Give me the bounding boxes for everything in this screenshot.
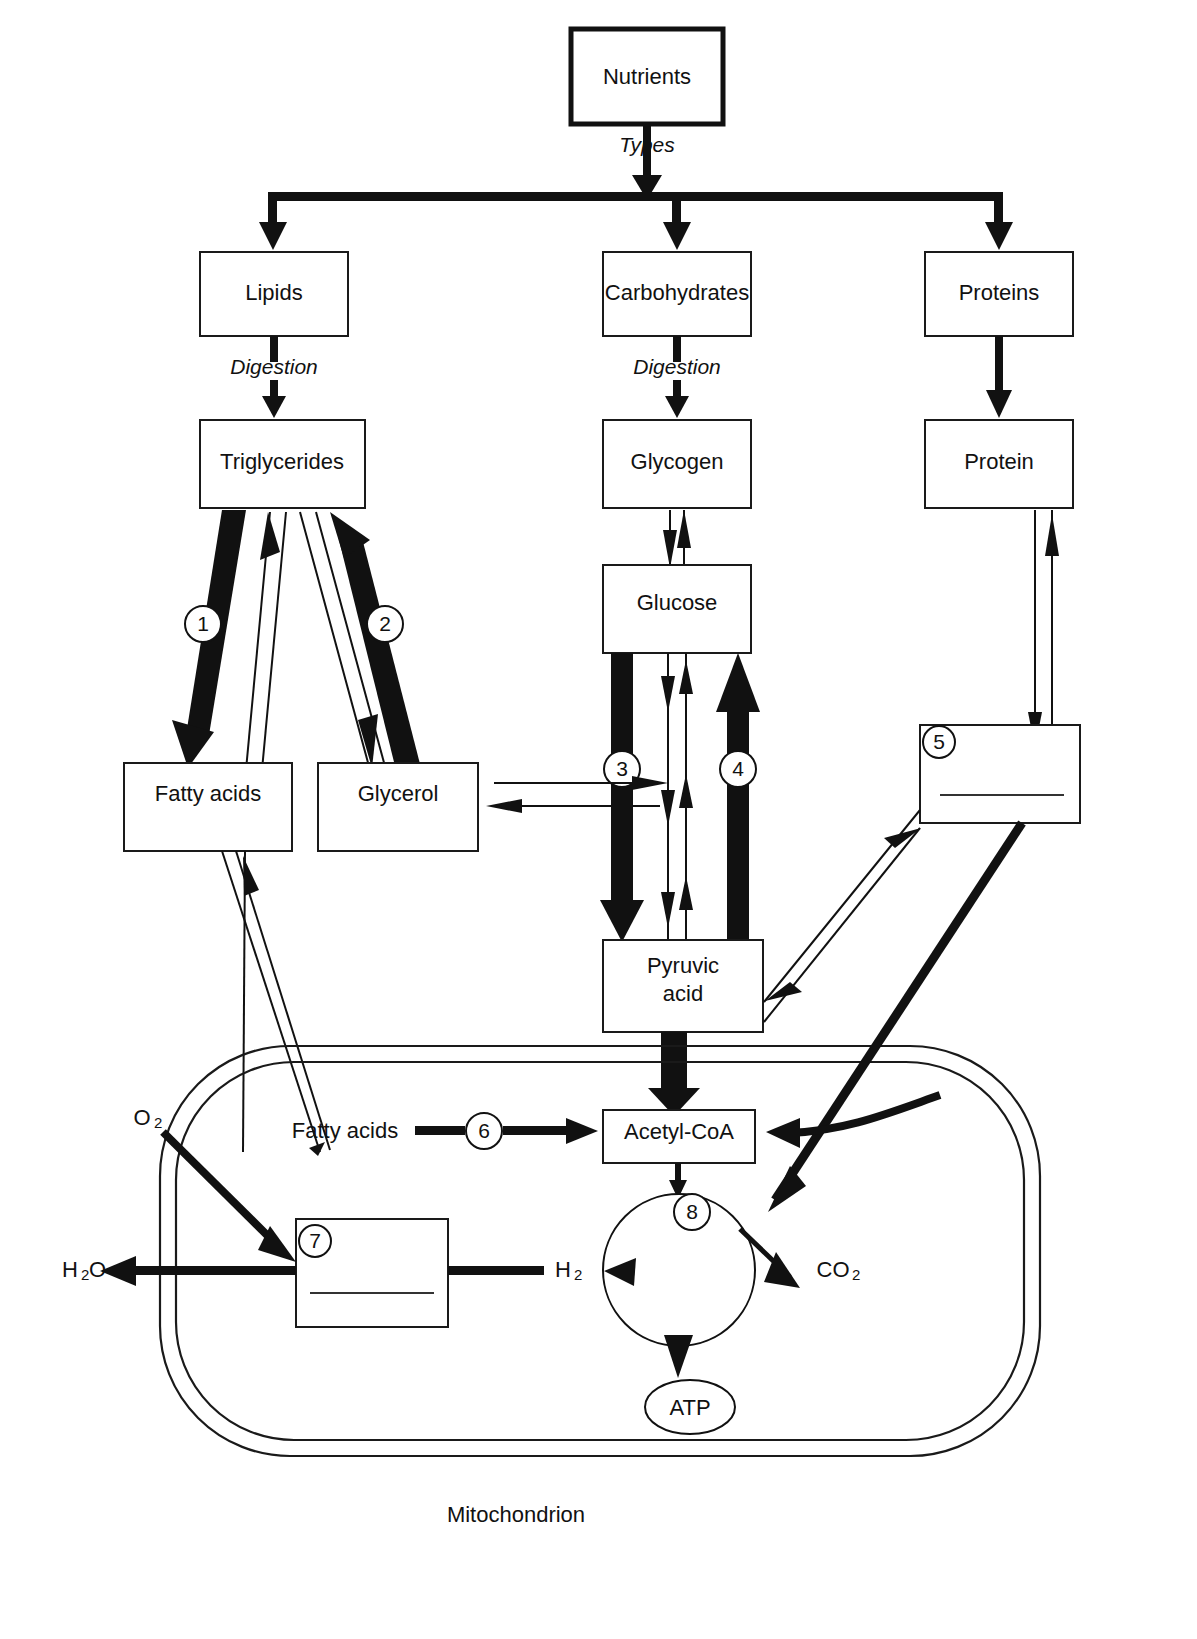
node-glycogen: Glycogen xyxy=(603,420,751,508)
digestion-lipids-label: Digestion xyxy=(230,355,318,378)
node-nutrients: Nutrients xyxy=(571,29,723,124)
co2-label: CO xyxy=(817,1257,850,1282)
lipids-label: Lipids xyxy=(245,280,302,305)
glycerol-box xyxy=(318,763,478,851)
h2-label: H xyxy=(555,1257,571,1282)
fatty-acids-box xyxy=(124,763,292,851)
node-pyruvic-acid: Pyruvic acid xyxy=(603,940,763,1032)
metabolism-flow-diagram: Nutrients Types Lipids Carbohydrates Pro… xyxy=(0,0,1197,1639)
node-carbohydrates: Carbohydrates xyxy=(603,252,751,336)
node-acetyl-coa: Acetyl-CoA xyxy=(603,1110,755,1163)
o2-label: O xyxy=(133,1105,150,1130)
protein-label: Protein xyxy=(964,449,1034,474)
node-protein: Protein xyxy=(925,420,1073,508)
glycerol-label: Glycerol xyxy=(358,781,439,806)
step-marker-2: 2 xyxy=(367,606,403,642)
h2-subscript: 2 xyxy=(574,1266,582,1283)
node-glycerol: Glycerol xyxy=(318,763,478,851)
acetyl-coa-label: Acetyl-CoA xyxy=(624,1119,734,1144)
o2-subscript: 2 xyxy=(154,1114,162,1131)
glucose-label: Glucose xyxy=(637,590,718,615)
carbohydrates-label: Carbohydrates xyxy=(605,280,749,305)
node-glucose: Glucose xyxy=(603,565,751,653)
step-3-label: 3 xyxy=(616,757,628,780)
step-4-label: 4 xyxy=(732,757,744,780)
pyruvic-acid-label-line2: acid xyxy=(663,981,703,1006)
co2-subscript: 2 xyxy=(852,1266,860,1283)
node-answer-box-7[interactable]: 7 xyxy=(296,1219,448,1327)
types-edge-label: Types xyxy=(619,133,675,156)
step-2-label: 2 xyxy=(379,612,391,635)
mitochondrion-caption: Mitochondrion xyxy=(447,1502,585,1527)
proteins-label: Proteins xyxy=(959,280,1040,305)
pyruvic-acid-label-line1: Pyruvic xyxy=(647,953,719,978)
mito-fatty-acids-label: Fatty acids xyxy=(292,1118,398,1143)
triglycerides-label: Triglycerides xyxy=(220,449,344,474)
node-triglycerides: Triglycerides xyxy=(200,420,365,508)
node-proteins: Proteins xyxy=(925,252,1073,336)
glycogen-label: Glycogen xyxy=(631,449,724,474)
nutrients-label: Nutrients xyxy=(603,64,691,89)
h2o-label: H xyxy=(62,1257,78,1282)
fatty-acids-label: Fatty acids xyxy=(155,781,261,806)
step-8-label: 8 xyxy=(686,1200,698,1223)
step-1-label: 1 xyxy=(197,612,209,635)
step-marker-1: 1 xyxy=(185,606,221,642)
h2o-tail: O xyxy=(89,1257,106,1282)
step-marker-4: 4 xyxy=(720,751,756,787)
step-7-label: 7 xyxy=(309,1229,321,1252)
atp-label: ATP xyxy=(669,1395,710,1420)
step-5-label: 5 xyxy=(933,730,945,753)
node-lipids: Lipids xyxy=(200,252,348,336)
node-fatty-acids: Fatty acids xyxy=(124,763,292,851)
node-atp: ATP xyxy=(645,1380,735,1434)
step-6-label: 6 xyxy=(478,1119,490,1142)
digestion-carbs-label: Digestion xyxy=(633,355,721,378)
node-answer-box-5[interactable]: 5 xyxy=(920,725,1080,823)
